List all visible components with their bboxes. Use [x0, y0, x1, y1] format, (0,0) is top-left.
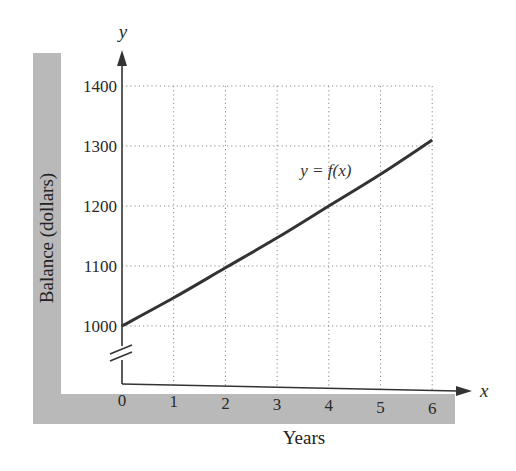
x-tick-label: 1 [169, 392, 178, 411]
x-tick-label: 0 [118, 391, 127, 410]
curve-label: y = f(x) [298, 161, 351, 180]
x-tick-label: 5 [376, 398, 385, 417]
y-tick-label: 1400 [83, 77, 117, 96]
x-tick-label: 6 [428, 399, 437, 418]
y-axis-symbol: y [117, 21, 128, 42]
x-tick-labels: 0123456 [118, 391, 437, 418]
x-tick-label: 3 [273, 395, 282, 414]
y-tick-label: 1000 [83, 317, 117, 336]
y-tick-label: 1300 [83, 137, 117, 156]
y-tick-labels: 10001100120013001400 [83, 77, 117, 336]
x-axis-symbol: x [479, 380, 489, 401]
chart-plot: 10001100120013001400 0123456 y x y = f(x… [0, 0, 516, 471]
y-axis-arrow-icon [117, 50, 127, 66]
x-tick-label: 2 [221, 394, 230, 413]
axes [108, 50, 472, 396]
x-axis-arrow-icon [456, 386, 472, 396]
x-axis-line [122, 384, 458, 391]
y-tick-label: 1200 [83, 197, 117, 216]
x-tick-label: 4 [325, 396, 334, 415]
y-tick-label: 1100 [84, 257, 117, 276]
